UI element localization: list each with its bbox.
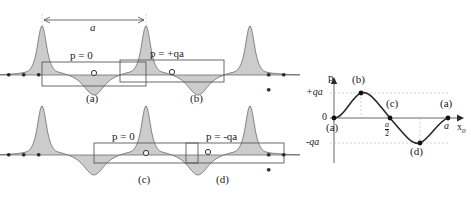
plot-marker-a1	[332, 116, 337, 121]
polarization-label-a: p = 0	[70, 50, 93, 61]
centroid-marker-b	[169, 69, 174, 74]
plot-annotation-a2: (a)	[440, 98, 452, 109]
panel-caption-a: (a)	[86, 93, 98, 104]
panel-caption-c: (c)	[138, 174, 150, 185]
plot-y-axis-title: p	[328, 72, 334, 83]
physics-figure: a p = 0 p = +qa p = 0 p = -qa (a) (b) (c…	[0, 0, 471, 204]
ellipsis-right-top: • • •	[266, 68, 300, 98]
plot-marker-b	[359, 91, 364, 96]
plot-xtick-half-a: a 2	[385, 121, 389, 138]
top-row-charge-density	[0, 26, 300, 95]
bottom-row-charge-density	[0, 106, 300, 175]
plot-ytick-minus-qa: -qa	[306, 137, 319, 147]
polarization-label-c: p = 0	[112, 131, 135, 142]
plot-annotation-d: (d)	[410, 146, 423, 157]
centroid-marker-d	[205, 149, 210, 154]
polarization-plot-panel: p +qa 0 -qa a 2 a x0 (a) (b) (c) (d) (a)	[300, 0, 471, 204]
centroid-marker-c	[143, 150, 148, 155]
ellipsis-left-bottom: • • •	[6, 148, 44, 163]
plot-annotation-c: (c)	[386, 98, 398, 109]
polarization-label-b: p = +qa	[150, 48, 184, 59]
lattice-dimension-label: a	[90, 22, 96, 33]
ellipsis-right-bottom: • • •	[266, 148, 300, 178]
panel-caption-b: (b)	[190, 93, 203, 104]
plot-annotation-b: (b)	[352, 74, 365, 85]
plot-x-axis-subscript: 0	[462, 127, 466, 135]
fraction-a-over-2: a 2	[385, 121, 389, 138]
plot-x-axis-title: x0	[457, 122, 466, 135]
fraction-numerator: a	[385, 121, 389, 129]
charge-density-panel: a p = 0 p = +qa p = 0 p = -qa (a) (b) (c…	[0, 0, 300, 204]
plot-annotation-a1: (a)	[326, 122, 338, 133]
bottom-row-group	[0, 106, 300, 175]
polarization-label-d: p = -qa	[206, 131, 237, 142]
ellipsis-left-top: • • •	[6, 68, 44, 83]
plot-ytick-plus-qa: +qa	[306, 87, 323, 97]
fraction-denominator: 2	[385, 130, 389, 138]
panel-caption-d: (d)	[216, 174, 229, 185]
plot-xtick-a: a	[444, 121, 449, 131]
centroid-marker-a	[91, 70, 96, 75]
